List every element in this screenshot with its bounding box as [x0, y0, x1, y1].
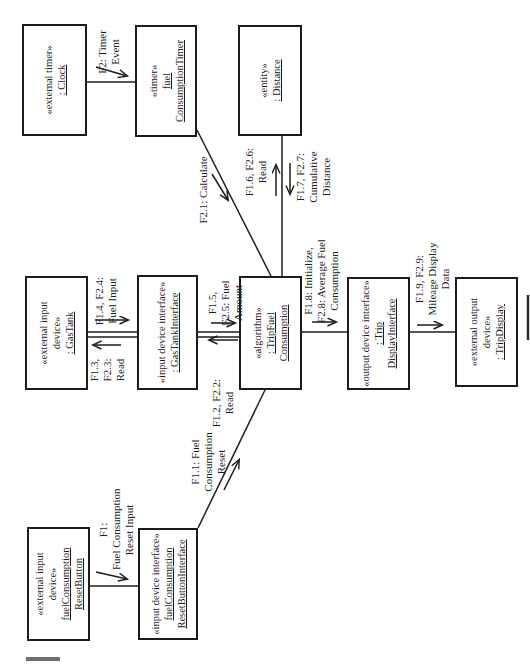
message-text: F2.1: Calculate [197, 148, 210, 232]
object-box-reset-button: «external input device» fuelConsumption … [27, 527, 90, 641]
message-label-f2-1-calculate: F2.1: Calculate [197, 148, 210, 232]
message-text: Distance [320, 144, 333, 210]
message-text: F1.1: Fuel [189, 424, 202, 500]
object-name: : GasTank [63, 312, 76, 355]
message-text: F1.6, F2.6: [243, 140, 256, 204]
message-label-f2-timer-event: F2: Timer Event [96, 22, 122, 82]
object-box-distance: «entity» : Distance [238, 25, 302, 136]
message-text: F1.3, [88, 346, 101, 394]
object-box-fuel-consumption-timer: «timer» fuel ConsumptionTimer [135, 25, 197, 137]
object-name: : Clock [55, 65, 68, 96]
object-name: : GasTankInterface [168, 293, 181, 373]
message-text: F1.5, [206, 274, 219, 332]
stereotype-label: «input device interface» [155, 282, 168, 383]
message-text: Fuel Input [106, 270, 119, 332]
message-text: F1.8: Initialize, [302, 232, 315, 330]
message-text: F1.4, F2.4: [93, 270, 106, 332]
stereotype-label: «external input [33, 552, 46, 615]
message-text: Reset Input [123, 490, 136, 570]
stereotype-label: «timer» [147, 65, 160, 98]
scan-artifact-bar [26, 657, 60, 661]
object-name: : Trip [372, 322, 385, 345]
object-box-trip-display-interface: «output device interface» : Trip Display… [347, 277, 410, 390]
message-label-f1-4-fuel-input: F1.4, F2.4: Fuel Input [93, 270, 119, 332]
message-label-f1-8-initialize-average: F1.8: Initialize, F2.8: Average Fuel Con… [302, 232, 341, 330]
message-text: Cumulative [307, 144, 320, 210]
message-text: Read [256, 140, 269, 204]
stereotype-label: «external output [467, 298, 480, 367]
object-box-gas-tank: «external input device» : GasTank [25, 276, 88, 390]
object-box-clock: «external timer» : Clock [22, 24, 87, 136]
message-text: F1.7, F2.7: [294, 144, 307, 210]
message-label-f1-6-read: F1.6, F2.6: Read [243, 140, 269, 204]
uml-collaboration-diagram: «external timer» : Clock «timer» fuel Co… [0, 0, 530, 668]
message-label-f1-7-cumulative-distance: F1.7, F2.7: Cumulative Distance [294, 144, 333, 210]
message-label-f1-reset-input: F1: Fuel Consumption Reset Input [97, 490, 136, 570]
message-text: Fuel Consumption [110, 490, 123, 570]
message-text: F2.5: Fuel [219, 274, 232, 332]
message-text: Data [439, 242, 452, 316]
stereotype-label: «external timer» [42, 45, 55, 114]
message-text: Mileage Display [426, 242, 439, 316]
message-text: F2.8: Average Fuel [315, 232, 328, 330]
object-name: ConsumptionTimer [173, 40, 186, 122]
object-name: fuel [160, 73, 173, 89]
object-name: fuelConsumption [162, 548, 175, 621]
object-name: : TripDisplay [493, 304, 506, 360]
object-name: DisplayInterface [385, 299, 398, 369]
message-label-f1-1-consumption-reset: F1.1: Fuel Consumption Reset [189, 424, 228, 500]
message-text: Event [109, 22, 122, 82]
object-name: : Distance [270, 59, 283, 101]
object-name: ResetButtonInterface [175, 539, 188, 628]
scanned-page: «external timer» : Clock «timer» fuel Co… [0, 0, 530, 668]
message-text: F2.3: [101, 346, 114, 394]
stereotype-label: «entity» [257, 63, 270, 97]
stereotype-label: device» [50, 317, 63, 350]
object-box-trip-display: «external output device» : TripDisplay [455, 277, 518, 387]
message-text: F1: [97, 490, 110, 570]
message-label-f1-3-read: F1.3, F2.3: Read [88, 346, 127, 394]
message-label-f1-9-mileage-display-data: F1.9, F2.9: Mileage Display Data [413, 242, 452, 316]
stereotype-label: device» [46, 568, 59, 601]
message-text: Amount [232, 274, 245, 332]
message-text: F1.9, F2.9: [413, 242, 426, 316]
message-text: Read [114, 346, 127, 394]
object-name: fuelConsumption [59, 548, 72, 621]
message-text: Consumption [202, 424, 215, 500]
message-text: Reset [215, 424, 228, 500]
arrow-f1-reset-input [96, 572, 127, 579]
message-text: Consumption [328, 232, 341, 330]
stereotype-label: «algorithm» [251, 307, 264, 358]
object-name: ResetButton [72, 558, 85, 610]
message-text: F2: Timer [96, 22, 109, 82]
stereotype-label: «input device interface» [149, 533, 162, 634]
object-name: Consumption [277, 305, 290, 362]
object-name: : TripFuel [264, 312, 277, 354]
stereotype-label: «external input [37, 301, 50, 364]
object-box-trip-fuel-consumption: «algorithm» : TripFuel Consumption [239, 276, 302, 390]
object-box-reset-button-interface: «input device interface» fuelConsumption… [138, 528, 198, 640]
object-box-gas-tank-interface: «input device interface» : GasTankInterf… [137, 275, 198, 390]
stereotype-label: device» [480, 316, 493, 349]
message-label-f1-5-fuel-amount: F1.5, F2.5: Fuel Amount [206, 274, 245, 332]
stereotype-label: «output device interface» [359, 280, 372, 387]
